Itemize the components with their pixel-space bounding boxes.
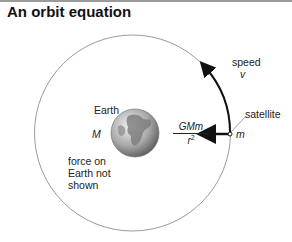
force-note-line: force on: [68, 155, 111, 167]
orbit-diagram: [0, 0, 292, 242]
earth-mass-label: M: [92, 128, 101, 140]
speed-symbol: v: [240, 68, 245, 80]
force-note: force on Earth not shown: [68, 155, 111, 191]
force-numerator: GMm: [173, 121, 209, 134]
force-note-line: shown: [68, 179, 111, 191]
satellite-mass-label: m: [236, 128, 245, 140]
force-denominator-exponent: 2: [191, 134, 195, 141]
force-denominator: r2: [187, 135, 194, 146]
force-formula: GMm r2: [173, 121, 209, 146]
speed-label: speed: [232, 56, 261, 68]
earth-globe-icon: [111, 109, 159, 157]
satellite-point: [228, 132, 232, 136]
earth-label: Earth: [94, 104, 119, 116]
force-note-line: Earth not: [68, 167, 111, 179]
satellite-label: satellite: [245, 108, 281, 120]
